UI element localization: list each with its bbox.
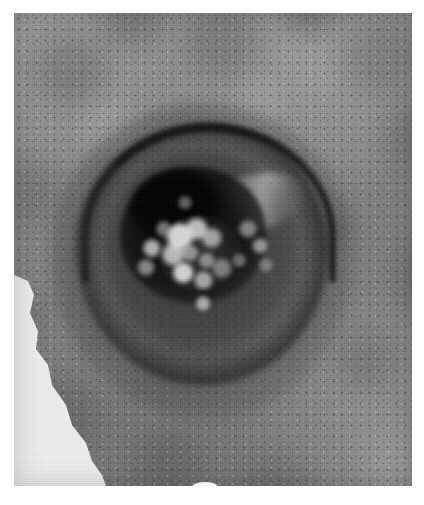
screenshot-root (0, 0, 424, 505)
clinical-photograph (14, 13, 412, 486)
print-edge-notch (192, 482, 218, 486)
white-backdrop-wedge (14, 13, 412, 486)
white-wedge-shape (14, 275, 106, 486)
